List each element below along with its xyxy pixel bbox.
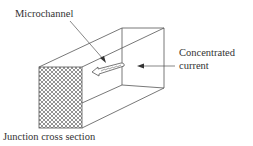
microchannel-leader-arrow [70, 21, 106, 63]
junction-cross-section-face [39, 67, 82, 128]
concentrated-current-arrow [137, 64, 175, 69]
box-back-face [122, 28, 164, 88]
diagram-canvas [0, 0, 253, 146]
microchannel-label: Microchannel [15, 8, 73, 19]
microchannel-shape [92, 63, 124, 76]
junction-cross-section-label: Junction cross section [3, 131, 95, 142]
concentrated-current-label-line2: current [179, 60, 209, 71]
concentrated-current-label-line1: Concentrated [179, 47, 235, 58]
